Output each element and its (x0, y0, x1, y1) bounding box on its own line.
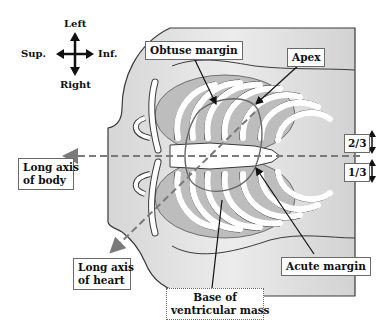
orientation-cross (56, 32, 94, 76)
base-line1: Base of (171, 291, 259, 304)
long-axis-heart-line2: of heart (78, 274, 126, 287)
obtuse-margin-label: Obtuse margin (145, 41, 243, 60)
fraction-lower-label: 1/3 (344, 163, 370, 182)
orientation-right-label: Right (60, 79, 91, 91)
long-axis-body-label: Long axis of body (18, 158, 74, 190)
base-line2: ventricular mass (171, 304, 259, 317)
long-axis-body-line2: of body (23, 174, 69, 187)
orientation-inf-label: Inf. (98, 48, 117, 60)
fraction-upper-label: 2/3 (344, 134, 370, 153)
apex-label: Apex (287, 48, 325, 67)
long-axis-body-line1: Long axis (23, 161, 69, 174)
base-of-ventricular-mass-label: Base of ventricular mass (166, 288, 264, 320)
long-axis-heart-line1: Long axis (78, 261, 126, 274)
diagram-stage: Left Right Sup. Inf. Obtuse margin Apex … (0, 0, 391, 328)
acute-margin-label: Acute margin (281, 257, 371, 276)
orientation-sup-label: Sup. (21, 48, 46, 60)
long-axis-heart-label: Long axis of heart (73, 258, 131, 290)
orientation-left-label: Left (64, 18, 86, 30)
